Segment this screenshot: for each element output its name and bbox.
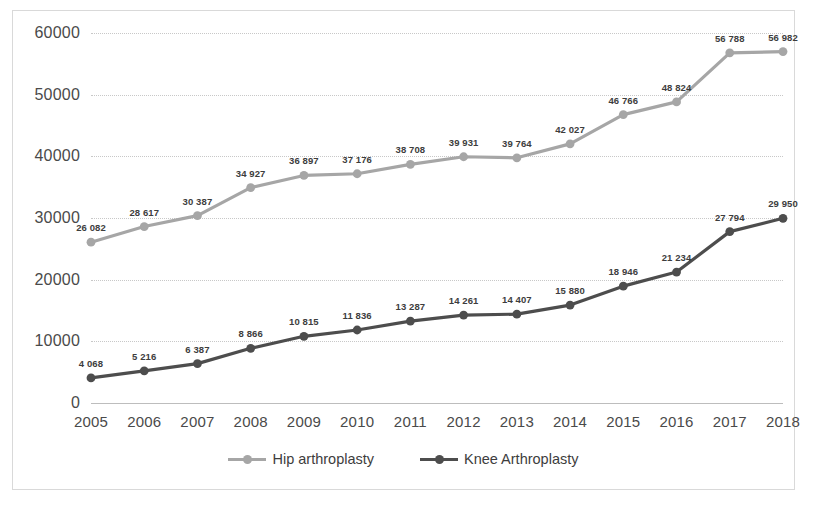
data-point-label: 18 946 (608, 266, 638, 277)
data-point-marker (246, 183, 255, 192)
data-point-label: 5 216 (132, 351, 156, 362)
y-axis-tick-label: 10000 (35, 332, 81, 350)
x-axis-tick-label: 2006 (127, 413, 161, 430)
data-point-label: 34 927 (236, 168, 266, 179)
y-axis-tick-label: 50000 (35, 86, 81, 104)
data-point-marker (725, 48, 734, 57)
data-point-label: 4 068 (79, 358, 103, 369)
y-axis-tick-label: 30000 (35, 209, 81, 227)
data-point-marker (353, 326, 362, 335)
data-point-label: 29 950 (768, 198, 798, 209)
data-point-marker (87, 238, 96, 247)
data-point-marker (672, 98, 681, 107)
legend-marker-icon (228, 453, 266, 465)
legend-label: Knee Arthroplasty (464, 451, 578, 467)
data-point-label: 10 815 (289, 316, 319, 327)
data-point-marker (87, 374, 96, 383)
data-point-marker (619, 282, 628, 291)
data-point-label: 56 788 (715, 33, 745, 44)
x-axis-tick-label: 2017 (713, 413, 747, 430)
legend-label: Hip arthroplasty (272, 451, 374, 467)
y-axis-tick-label: 0 (71, 394, 80, 412)
data-point-marker (779, 47, 788, 56)
data-point-label: 39 764 (502, 138, 532, 149)
x-axis-tick-label: 2005 (74, 413, 108, 430)
data-point-label: 36 897 (289, 155, 319, 166)
chart-legend: Hip arthroplastyKnee Arthroplasty (13, 451, 794, 467)
data-point-label: 30 387 (183, 196, 213, 207)
data-point-label: 13 287 (396, 301, 426, 312)
y-axis-tick-label: 20000 (35, 271, 81, 289)
x-axis-tick-label: 2013 (500, 413, 534, 430)
data-point-label: 27 794 (715, 212, 745, 223)
data-point-label: 21 234 (662, 252, 692, 263)
data-point-label: 42 027 (555, 124, 585, 135)
data-point-marker (406, 160, 415, 169)
x-axis-tick-label: 2011 (394, 413, 427, 430)
data-point-label: 46 766 (608, 95, 638, 106)
data-point-label: 38 708 (396, 144, 426, 155)
data-point-marker (619, 110, 628, 119)
data-point-marker (140, 222, 149, 231)
data-point-marker (300, 171, 309, 180)
data-point-label: 26 082 (76, 222, 106, 233)
data-point-marker (725, 227, 734, 236)
data-point-marker (406, 317, 415, 326)
data-point-label: 56 982 (768, 32, 798, 43)
data-point-marker (459, 152, 468, 161)
data-point-marker (193, 359, 202, 368)
legend-item[interactable]: Knee Arthroplasty (420, 451, 578, 467)
data-point-label: 15 880 (555, 285, 585, 296)
data-point-marker (140, 366, 149, 375)
legend-marker-icon (420, 453, 458, 465)
data-point-marker (672, 268, 681, 277)
data-point-label: 48 824 (662, 82, 692, 93)
legend-item[interactable]: Hip arthroplasty (228, 451, 374, 467)
data-point-label: 11 836 (343, 310, 372, 321)
data-point-label: 39 931 (449, 137, 479, 148)
y-axis-tick-label: 60000 (35, 24, 81, 42)
x-axis-tick-label: 2012 (447, 413, 481, 430)
data-point-marker (779, 214, 788, 223)
chart-container: 0100002000030000400005000060000 20052006… (12, 10, 795, 490)
x-axis-tick-label: 2008 (234, 413, 268, 430)
x-axis-tick-label: 2007 (180, 413, 214, 430)
data-point-marker (566, 301, 575, 310)
x-axis-tick-label: 2015 (606, 413, 640, 430)
data-point-marker (193, 211, 202, 220)
data-point-label: 8 866 (239, 328, 263, 339)
data-point-marker (566, 139, 575, 148)
data-point-marker (512, 153, 521, 162)
data-point-label: 14 261 (449, 295, 479, 306)
gridline (91, 403, 783, 404)
data-point-marker (512, 310, 521, 319)
x-axis-tick-label: 2010 (340, 413, 374, 430)
y-axis-tick-label: 40000 (35, 147, 81, 165)
data-point-label: 6 387 (185, 344, 209, 355)
x-axis-tick-label: 2009 (287, 413, 321, 430)
plot-area: 0100002000030000400005000060000 20052006… (91, 33, 783, 403)
data-point-label: 14 407 (502, 294, 532, 305)
x-axis-tick-label: 2016 (659, 413, 693, 430)
data-point-marker (353, 169, 362, 178)
data-point-label: 37 176 (342, 154, 372, 165)
data-point-marker (246, 344, 255, 353)
data-point-marker (459, 311, 468, 320)
x-axis-tick-label: 2018 (766, 413, 800, 430)
data-point-label: 28 617 (129, 207, 159, 218)
x-axis-tick-label: 2014 (553, 413, 587, 430)
data-point-marker (300, 332, 309, 341)
